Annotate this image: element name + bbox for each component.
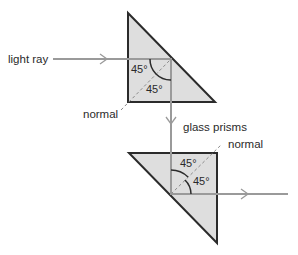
light-ray-path xyxy=(53,59,288,194)
bottom-prism xyxy=(129,153,217,243)
normal-label-bottom: normal xyxy=(228,138,263,150)
periscope-diagram: 45° 45° 45° 45° light ray normal glass p… xyxy=(0,0,298,255)
angle-label-top-incident: 45° xyxy=(131,63,148,75)
angle-label-top-reflected: 45° xyxy=(146,83,163,95)
angle-label-bottom-incident: 45° xyxy=(180,157,197,169)
angle-label-bottom-reflected: 45° xyxy=(193,175,210,187)
glass-prisms-label: glass prisms xyxy=(183,121,247,133)
normal-label-top: normal xyxy=(83,108,118,120)
light-ray-label: light ray xyxy=(8,53,49,65)
